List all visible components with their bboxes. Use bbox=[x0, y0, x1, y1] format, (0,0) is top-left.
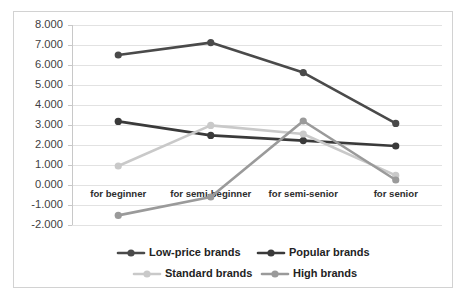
legend-label: Low-price brands bbox=[149, 246, 241, 258]
data-point[interactable] bbox=[207, 122, 214, 129]
legend-label: Popular brands bbox=[289, 246, 370, 258]
series-1 bbox=[115, 39, 400, 127]
data-point[interactable] bbox=[300, 130, 307, 137]
series-group bbox=[115, 39, 400, 219]
y-axis-tick-label: 2.000 bbox=[35, 138, 63, 150]
legend-swatch-marker bbox=[127, 249, 134, 256]
legend-label: High brands bbox=[293, 267, 357, 279]
x-axis-category-label: for beginner bbox=[90, 188, 146, 199]
legend-swatch-marker bbox=[143, 270, 150, 277]
chart-frame: 8.0007.0006.0005.0004.0003.0002.0001.000… bbox=[13, 11, 453, 288]
x-axis-category-label: for senior bbox=[374, 188, 419, 199]
y-axis-tick-label: 8.000 bbox=[35, 18, 63, 30]
data-point[interactable] bbox=[300, 69, 307, 76]
y-axis-tick-label: 7.000 bbox=[35, 38, 63, 50]
y-axis-tick-labels: 8.0007.0006.0005.0004.0003.0002.0001.000… bbox=[31, 18, 72, 230]
legend-swatch-marker bbox=[267, 249, 274, 256]
data-point[interactable] bbox=[392, 142, 399, 149]
chart-legend: Low-price brandsPopular brandsStandard b… bbox=[118, 246, 370, 279]
data-point[interactable] bbox=[207, 39, 214, 46]
data-point[interactable] bbox=[207, 132, 214, 139]
data-point[interactable] bbox=[115, 212, 122, 219]
data-point[interactable] bbox=[115, 51, 122, 58]
line-chart: 8.0007.0006.0005.0004.0003.0002.0001.000… bbox=[14, 12, 454, 289]
series-3 bbox=[115, 122, 400, 179]
data-point[interactable] bbox=[392, 120, 399, 127]
x-axis-category-label: for semi-senior bbox=[269, 188, 339, 199]
legend-item[interactable]: Low-price brands bbox=[118, 246, 241, 258]
y-axis-tick-label: 5.000 bbox=[35, 78, 63, 90]
data-point[interactable] bbox=[207, 193, 214, 200]
data-point[interactable] bbox=[115, 162, 122, 169]
series-line-standard-brands bbox=[118, 125, 396, 175]
y-axis-tick-label: 1.000 bbox=[35, 158, 63, 170]
legend-item[interactable]: High brands bbox=[262, 267, 357, 279]
data-point[interactable] bbox=[300, 117, 307, 124]
series-4 bbox=[115, 117, 400, 219]
series-line-high-brands bbox=[118, 121, 396, 215]
y-axis-tick-label: 4.000 bbox=[35, 98, 63, 110]
legend-label: Standard brands bbox=[165, 267, 252, 279]
series-line-low-price-brands bbox=[118, 43, 396, 124]
chart-canvas: 8.0007.0006.0005.0004.0003.0002.0001.000… bbox=[14, 12, 454, 289]
y-axis-tick-label: -2.000 bbox=[31, 218, 63, 230]
legend-swatch-marker bbox=[271, 270, 278, 277]
x-axis-category-labels: for beginnerfor semi-beginnerfor semi-se… bbox=[90, 188, 418, 199]
y-axis-tick-label: -1.000 bbox=[31, 198, 63, 210]
data-point[interactable] bbox=[115, 118, 122, 125]
data-point[interactable] bbox=[300, 137, 307, 144]
data-point[interactable] bbox=[392, 176, 399, 183]
y-axis-tick-label: 0.000 bbox=[35, 178, 63, 190]
legend-item[interactable]: Standard brands bbox=[134, 267, 252, 279]
y-axis-tick-label: 3.000 bbox=[35, 118, 63, 130]
legend-item[interactable]: Popular brands bbox=[258, 246, 370, 258]
y-axis-tick-label: 6.000 bbox=[35, 58, 63, 70]
